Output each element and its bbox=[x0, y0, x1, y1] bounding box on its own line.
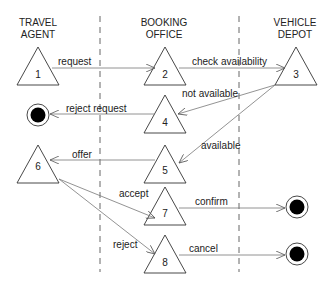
end-state-cancel bbox=[286, 243, 308, 265]
lane-header-vehicle-depot: VEHICLE DEPOT bbox=[255, 17, 331, 41]
transition-label-reject: reject bbox=[113, 240, 137, 250]
lane-header-line1: VEHICLE bbox=[255, 17, 331, 29]
lane-header-booking-office: BOOKING OFFICE bbox=[124, 17, 204, 41]
lane-header-line1: TRAVEL bbox=[0, 17, 78, 29]
lane-header-line2: AGENT bbox=[0, 29, 78, 41]
state-5-label: 5 bbox=[155, 166, 175, 176]
state-1-label: 1 bbox=[28, 70, 48, 80]
transition-label-check-availability: check availability bbox=[192, 57, 267, 67]
transition-label-confirm: confirm bbox=[195, 197, 228, 207]
transition-label-cancel: cancel bbox=[189, 244, 218, 254]
state-7-label: 7 bbox=[155, 209, 175, 219]
lane-header-line1: BOOKING bbox=[124, 17, 204, 29]
transition-label-reject-request: reject request bbox=[66, 104, 127, 114]
end-state-reject-request bbox=[27, 104, 49, 126]
transition-label-not-available: not available bbox=[182, 89, 238, 99]
swimlane-diagram: TRAVEL AGENT BOOKING OFFICE VEHICLE DEPO… bbox=[0, 0, 331, 289]
lane-header-line2: OFFICE bbox=[124, 29, 204, 41]
state-6-label: 6 bbox=[28, 162, 48, 172]
state-3-label: 3 bbox=[286, 70, 306, 80]
state-7-triangle bbox=[144, 187, 186, 225]
end-state-confirm bbox=[286, 196, 308, 218]
lane-header-travel-agent: TRAVEL AGENT bbox=[0, 17, 78, 41]
state-8-label: 8 bbox=[155, 258, 175, 268]
state-5-triangle bbox=[144, 145, 186, 183]
state-2-label: 2 bbox=[155, 70, 175, 80]
state-4-label: 4 bbox=[155, 118, 175, 128]
transition-label-available: available bbox=[201, 141, 240, 151]
transition-label-accept: accept bbox=[119, 189, 148, 199]
lane-header-line2: DEPOT bbox=[255, 29, 331, 41]
diagram-graphics bbox=[0, 0, 331, 289]
transition-label-offer: offer bbox=[72, 150, 92, 160]
transition-label-request: request bbox=[58, 57, 91, 67]
